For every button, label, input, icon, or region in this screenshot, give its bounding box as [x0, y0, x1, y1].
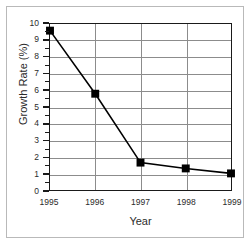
- y-axis-minor-tick: [45, 115, 49, 116]
- y-axis-minor-tick: [45, 149, 49, 150]
- y-axis-tick: [43, 140, 49, 142]
- y-axis-tick: [43, 89, 49, 91]
- y-axis-tick: [43, 39, 49, 41]
- y-axis-tick: [43, 22, 49, 24]
- y-axis-tick: [43, 157, 49, 159]
- data-point-marker: [182, 164, 190, 172]
- y-axis-tick: [43, 190, 49, 192]
- plot-area: [49, 23, 232, 191]
- y-axis-tick: [43, 56, 49, 58]
- y-axis-tick-label: 1: [19, 170, 39, 179]
- y-axis-tick: [43, 106, 49, 108]
- series-line: [50, 31, 231, 174]
- x-axis-label: Year: [49, 215, 232, 227]
- figure-container: 012345678910 19951996199719981999 Growth…: [0, 0, 251, 245]
- y-axis-minor-tick: [45, 132, 49, 133]
- y-axis-minor-tick: [45, 48, 49, 49]
- data-point-marker: [137, 159, 145, 167]
- y-axis-minor-tick: [45, 31, 49, 32]
- y-axis-minor-tick: [45, 98, 49, 99]
- y-axis-minor-tick: [45, 81, 49, 82]
- y-axis-label: Growth Rate (%): [17, 19, 29, 149]
- line-chart: 012345678910 19951996199719981999 Growth…: [0, 0, 251, 245]
- x-axis-tick-label: 1997: [121, 198, 161, 207]
- x-axis-tick-label: 1999: [212, 198, 251, 207]
- y-axis-minor-tick: [45, 182, 49, 183]
- data-point-marker: [91, 90, 99, 98]
- x-axis-tick-label: 1998: [166, 198, 206, 207]
- y-axis-tick: [43, 173, 49, 175]
- data-point-marker: [227, 169, 235, 177]
- y-axis-minor-tick: [45, 65, 49, 66]
- y-axis-tick-label: 2: [19, 153, 39, 162]
- series-markers: [46, 27, 235, 178]
- y-axis-tick: [43, 123, 49, 125]
- x-axis-tick-label: 1995: [29, 198, 69, 207]
- data-series-layer: [50, 24, 231, 190]
- y-axis-tick: [43, 73, 49, 75]
- x-axis-tick-label: 1996: [75, 198, 115, 207]
- y-axis-minor-tick: [45, 165, 49, 166]
- y-axis-tick-label: 0: [19, 187, 39, 196]
